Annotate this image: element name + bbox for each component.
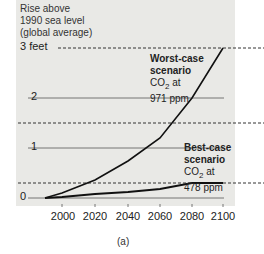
x-tick-2020: 2020 <box>83 210 107 222</box>
best-case-title: scenario <box>184 154 225 165</box>
figure-caption: (a) <box>117 236 129 247</box>
best-case-title: Best-case <box>184 142 231 153</box>
best-case-annotation: Best-case scenario CO2 at 478 ppm <box>184 142 231 194</box>
worst-case-title: scenario <box>150 65 191 76</box>
x-tick-2000: 2000 <box>51 210 75 222</box>
x-tick-2040: 2040 <box>116 210 140 222</box>
worst-case-annotation: Worst-case scenario CO2 at 971 ppm <box>150 53 204 105</box>
x-tick-2100: 2100 <box>211 210 235 222</box>
x-tick-2080: 2080 <box>180 210 204 222</box>
y-tick-3: 3 feet <box>20 40 48 52</box>
best-case-ppm: 478 ppm <box>184 182 231 194</box>
y-tick-2: 2 <box>31 90 37 102</box>
at-label: at <box>203 166 214 177</box>
co2-label: CO <box>150 77 165 88</box>
y-tick-1: 1 <box>31 140 37 152</box>
x-tick-2060: 2060 <box>148 210 172 222</box>
at-label: at <box>169 77 180 88</box>
y-tick-0: 0 <box>20 190 26 202</box>
worst-case-title: Worst-case <box>150 53 204 64</box>
co2-label: CO <box>184 166 199 177</box>
worst-case-ppm: 971 ppm <box>150 93 204 105</box>
